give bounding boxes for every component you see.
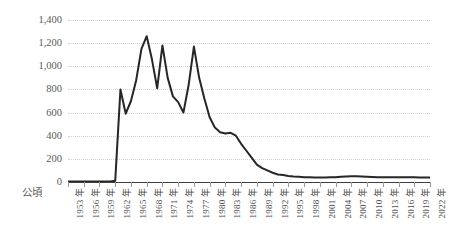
x-tick xyxy=(351,182,352,187)
x-tick-label: 1983 年 xyxy=(230,188,244,234)
x-tick-label: 1980 年 xyxy=(215,188,229,234)
y-tick-label: 800 xyxy=(2,84,62,95)
x-tick xyxy=(304,182,305,187)
x-tick-label: 2004 年 xyxy=(341,188,355,234)
x-tick-label: 1989 年 xyxy=(262,188,276,234)
x-tick xyxy=(336,182,337,187)
x-tick xyxy=(210,182,211,187)
x-tick xyxy=(99,182,100,187)
x-tick xyxy=(115,182,116,187)
x-axis-ticks xyxy=(68,182,430,187)
x-tick xyxy=(257,182,258,187)
y-tick-label: 1,000 xyxy=(2,61,62,72)
x-tick-label: 2010 年 xyxy=(372,188,386,234)
y-tick-label: 400 xyxy=(2,130,62,141)
x-tick xyxy=(84,182,85,187)
x-tick xyxy=(273,182,274,187)
y-tick-label: 1,200 xyxy=(2,38,62,49)
x-tick-label: 1959 年 xyxy=(104,188,118,234)
x-tick xyxy=(414,182,415,187)
x-tick-label: 1995 年 xyxy=(293,188,307,234)
y-tick-label: 200 xyxy=(2,154,62,165)
x-tick xyxy=(383,182,384,187)
x-tick-label: 1974 年 xyxy=(183,188,197,234)
x-tick xyxy=(178,182,179,187)
x-tick xyxy=(399,182,400,187)
x-tick xyxy=(241,182,242,187)
x-tick-label: 1956 年 xyxy=(89,188,103,234)
x-tick-label: 1998 年 xyxy=(309,188,323,234)
y-tick-label: 600 xyxy=(2,107,62,118)
y-tick-label: 0 xyxy=(2,177,62,188)
line-series xyxy=(68,20,430,182)
x-tick xyxy=(194,182,195,187)
x-tick-label: 1992 年 xyxy=(278,188,292,234)
x-tick-label: 2001 年 xyxy=(325,188,339,234)
x-tick xyxy=(367,182,368,187)
unit-label: 公頃 xyxy=(22,188,42,199)
x-tick xyxy=(225,182,226,187)
x-tick-label: 1968 年 xyxy=(152,188,166,234)
x-tick xyxy=(288,182,289,187)
x-tick-label: 2007 年 xyxy=(356,188,370,234)
x-tick-label: 1953 年 xyxy=(73,188,87,234)
x-tick xyxy=(430,182,431,187)
x-tick xyxy=(147,182,148,187)
y-axis-labels: 1,4001,2001,0008006004002000 xyxy=(0,20,62,182)
x-tick xyxy=(320,182,321,187)
x-tick xyxy=(68,182,69,187)
x-tick xyxy=(131,182,132,187)
x-tick-label: 2016 年 xyxy=(404,188,418,234)
x-axis-labels: 1953 年1956 年1959 年1962 年1965 年1968 年1971… xyxy=(68,188,430,234)
series-line xyxy=(68,36,430,181)
x-tick-label: 2019 年 xyxy=(419,188,433,234)
x-tick-label: 2022 年 xyxy=(435,188,449,234)
x-tick xyxy=(162,182,163,187)
x-tick-label: 2013 年 xyxy=(388,188,402,234)
x-tick-label: 1971 年 xyxy=(167,188,181,234)
plot-area xyxy=(68,20,430,182)
y-tick-label: 1,400 xyxy=(2,15,62,26)
x-tick-label: 1986 年 xyxy=(246,188,260,234)
x-tick-label: 1962 年 xyxy=(120,188,134,234)
x-tick-label: 1977 年 xyxy=(199,188,213,234)
x-tick-label: 1965 年 xyxy=(136,188,150,234)
